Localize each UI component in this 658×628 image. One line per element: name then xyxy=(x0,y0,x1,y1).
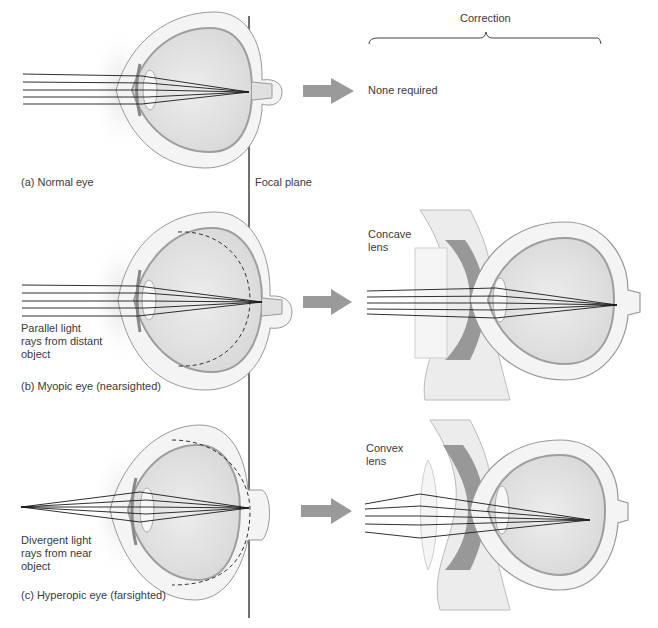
divergent-rays-label: Divergent light rays from near object xyxy=(21,534,92,573)
arrow-icon xyxy=(303,289,352,315)
caption-myopic-eye: (b) Myopic eye (nearsighted) xyxy=(21,380,161,393)
convex-lens-label: Convex lens xyxy=(366,442,403,468)
correction-none-required: None required xyxy=(368,84,438,97)
corrected-hyperopic-eye-illustration xyxy=(365,420,628,610)
correction-header: Correction xyxy=(460,12,511,25)
concave-lens-label: Concave lens xyxy=(368,228,411,254)
arrow-icon xyxy=(303,78,354,104)
normal-eye-illustration xyxy=(23,12,282,168)
caption-hyperopic-eye: (c) Hyperopic eye (farsighted) xyxy=(21,589,166,602)
focal-plane-label: Focal plane xyxy=(255,176,312,189)
correction-brace xyxy=(369,32,601,44)
arrow-icon xyxy=(301,498,352,524)
myopic-eye-illustration xyxy=(22,212,292,390)
hyperopic-eye-illustration xyxy=(21,425,270,600)
eye-diagram xyxy=(0,0,658,628)
parallel-rays-label: Parallel light rays from distant object xyxy=(21,322,102,361)
caption-normal-eye: (a) Normal eye xyxy=(21,176,94,189)
